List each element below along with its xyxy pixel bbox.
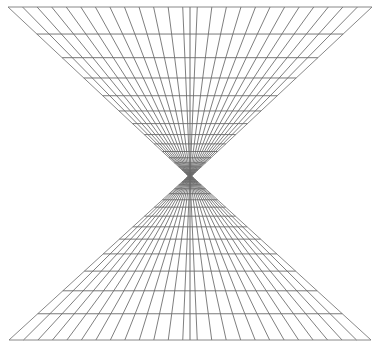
perspective-grid-figure bbox=[0, 0, 380, 348]
perspective-grid-canvas bbox=[0, 0, 380, 348]
